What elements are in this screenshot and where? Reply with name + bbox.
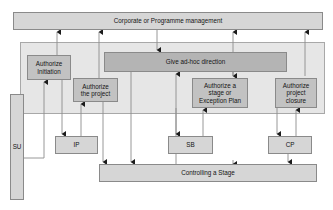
corporate-or-programme-management-label: Corporate or Programme management xyxy=(113,17,224,24)
controlling-a-stage-box[interactable]: Controlling a Stage xyxy=(99,164,317,182)
su-box[interactable]: SU xyxy=(10,94,24,200)
ip-box[interactable]: IP xyxy=(55,136,98,154)
authorize-project-closure-box[interactable]: Authorize project closure xyxy=(275,78,317,108)
authorize-a-stage-or-exception-plan-label: Authorize a stage or Exception Plan xyxy=(198,82,242,103)
authorize-a-stage-or-exception-plan-box[interactable]: Authorize a stage or Exception Plan xyxy=(192,78,248,108)
authorize-initiation-label: Authorize Initiation xyxy=(35,60,64,74)
give-ad-hoc-direction-label: Give ad-hoc direction xyxy=(165,58,227,65)
sb-label: SB xyxy=(185,141,195,148)
give-ad-hoc-direction-box[interactable]: Give ad-hoc direction xyxy=(104,52,287,72)
authorize-project-closure-label: Authorize project closure xyxy=(282,82,311,103)
authorize-initiation-box[interactable]: Authorize Initiation xyxy=(27,55,71,80)
cp-box[interactable]: CP xyxy=(268,136,312,154)
process-model-diagram: Corporate or Programme management SU Aut… xyxy=(0,0,333,210)
controlling-a-stage-label: Controlling a Stage xyxy=(180,169,236,176)
ip-label: IP xyxy=(73,141,81,148)
authorize-the-project-box[interactable]: Authorize the project xyxy=(73,78,118,102)
line-su-to-authorize-initiation xyxy=(24,82,44,158)
su-label: SU xyxy=(12,143,23,150)
corporate-or-programme-management-box[interactable]: Corporate or Programme management xyxy=(13,12,323,30)
sb-box[interactable]: SB xyxy=(168,136,213,154)
cp-label: CP xyxy=(285,141,296,148)
authorize-the-project-label: Authorize the project xyxy=(80,83,111,97)
